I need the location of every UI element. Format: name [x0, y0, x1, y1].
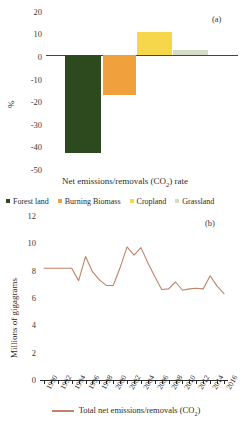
legend-label-total-net-emissions: Total net emissions/removals (CO2) — [79, 405, 201, 417]
panel-a-x-axis-title-post: ) rate — [169, 176, 188, 186]
legend-item-burning-biomass[interactable]: Burning Biomass — [58, 197, 121, 206]
panel-b-ytick-12: 12 — [14, 212, 36, 221]
bar-burning-biomass[interactable] — [103, 55, 136, 94]
figure-container: (a) % 20 10 0 -10 -20 -30 -40 -50 Net em… — [0, 0, 252, 425]
panel-a-ytick-0: 0 — [14, 53, 42, 62]
legend-label-cropland: Cropland — [137, 197, 167, 206]
legend-item-grassland[interactable]: Grassland — [175, 197, 214, 206]
legend-swatch-cropland-icon — [130, 199, 134, 203]
panel-b-legend: Total net emissions/removals (CO2) — [0, 405, 252, 417]
panel-a-ytick-neg50: -50 — [14, 166, 42, 175]
panel-b-y-axis-title: Millions of gigagrams — [9, 278, 19, 358]
panel-a-x-axis-title: Net emissions/removals (CO2) rate — [62, 176, 188, 188]
legend-label-burning-biomass: Burning Biomass — [65, 197, 121, 206]
panel-a-bar-chart: (a) % 20 10 0 -10 -20 -30 -40 -50 Net em… — [0, 0, 252, 195]
legend-item-cropland[interactable]: Cropland — [130, 197, 167, 206]
legend-swatch-grassland-icon — [175, 199, 179, 203]
panel-b-line-svg — [40, 216, 228, 381]
panel-a-ytick-neg10: -10 — [14, 76, 42, 85]
panel-a-ytick-neg30: -30 — [14, 121, 42, 130]
legend-label-post: ) — [198, 405, 201, 415]
panel-b-plot-area — [40, 216, 228, 381]
panel-a-x-axis-title-pre: Net emissions/removals (CO — [62, 176, 166, 186]
bar-cropland[interactable] — [137, 32, 172, 55]
panel-b-ytick-6: 6 — [14, 294, 36, 303]
series-total-net-emissions-line[interactable] — [44, 247, 224, 294]
panel-b-line-chart: (b) Millions of gigagrams 12 10 8 6 4 2 … — [0, 208, 252, 425]
legend-label-forest-land: Forest land — [13, 197, 49, 206]
legend-label-grassland: Grassland — [182, 197, 214, 206]
panel-a-ytick-20: 20 — [14, 8, 42, 17]
legend-label-pre: Total net emissions/removals (CO — [79, 405, 195, 415]
panel-a-legend: Forest land Burning Biomass Cropland Gra… — [2, 194, 252, 208]
panel-b-ytick-2: 2 — [14, 349, 36, 358]
bar-grassland[interactable] — [173, 50, 208, 56]
legend-line-total-net-emissions-icon — [52, 410, 74, 411]
panel-b-ytick-10: 10 — [14, 239, 36, 248]
panel-b-ytick-4: 4 — [14, 321, 36, 330]
panel-a-ytick-neg40: -40 — [14, 143, 42, 152]
panel-b-ytick-0: 0 — [14, 376, 36, 385]
bar-forest-land[interactable] — [65, 55, 101, 152]
panel-a-plot-area — [46, 8, 238, 174]
panel-a-ytick-10: 10 — [14, 30, 42, 39]
legend-swatch-forest-land-icon — [6, 199, 10, 203]
legend-swatch-burning-biomass-icon — [58, 199, 62, 203]
legend-item-forest-land[interactable]: Forest land — [6, 197, 49, 206]
panel-b-ytick-8: 8 — [14, 267, 36, 276]
panel-a-ytick-neg20: -20 — [14, 98, 42, 107]
